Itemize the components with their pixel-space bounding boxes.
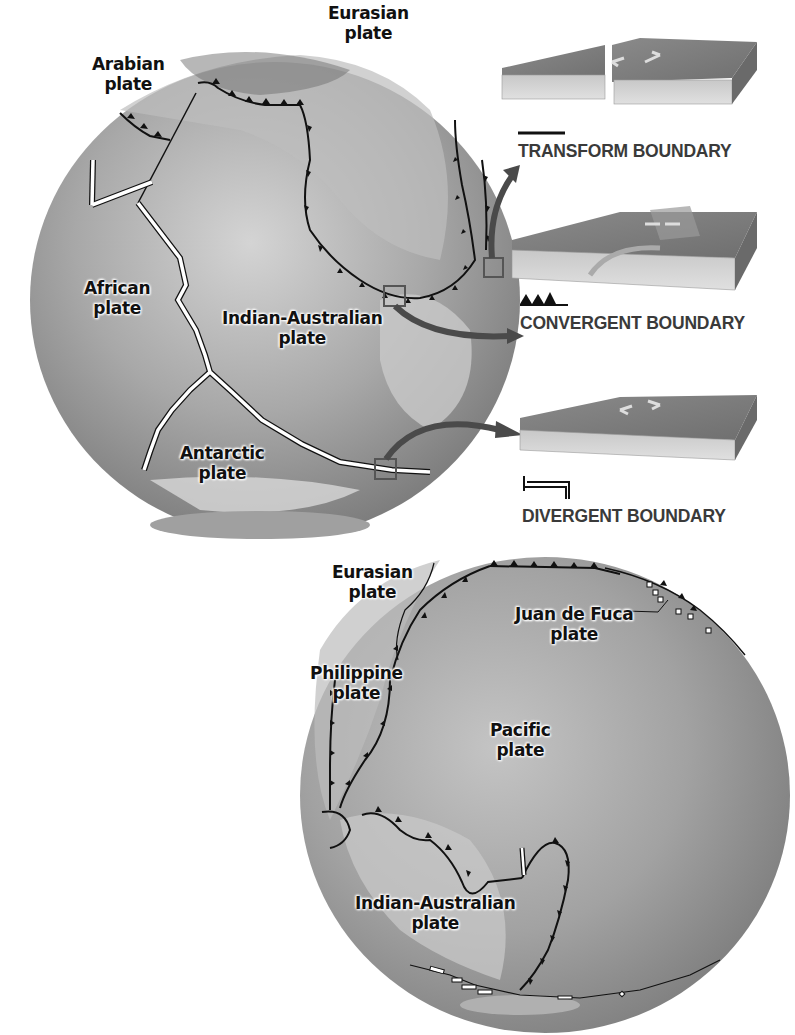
label-line: plate — [328, 23, 409, 43]
label-arabian-plate: Arabian plate — [92, 54, 164, 94]
label-eurasian-plate-top: Eurasian plate — [328, 3, 409, 43]
label-line: Eurasian — [328, 3, 409, 23]
label-line: Arabian — [92, 54, 164, 74]
label-line: Indian-Australian — [355, 893, 516, 913]
label-pacific-plate: Pacific plate — [490, 720, 551, 760]
label-line: Eurasian — [332, 562, 413, 582]
divergent-symbol — [524, 476, 569, 499]
label-indian-australian-plate-bottom: Indian-Australian plate — [355, 893, 516, 933]
label-eurasian-plate-bottom: Eurasian plate — [332, 562, 413, 602]
label-line: plate — [355, 913, 516, 933]
label-juan-de-fuca-plate: Juan de Fuca plate — [515, 604, 633, 644]
label-line: plate — [332, 582, 413, 602]
block-diagram-convergent — [512, 206, 757, 290]
label-line: plate — [222, 328, 383, 348]
legend-divergent-boundary: DIVERGENT BOUNDARY — [522, 506, 726, 527]
label-line: plate — [180, 463, 265, 483]
convergent-symbol — [520, 292, 568, 305]
label-african-plate: African plate — [84, 278, 150, 318]
label-line: plate — [84, 298, 150, 318]
label-indian-australian-plate-top: Indian-Australian plate — [222, 308, 383, 348]
label-line: Antarctic — [180, 443, 265, 463]
label-line: African — [84, 278, 150, 298]
label-line: plate — [490, 740, 551, 760]
block-diagram-transform — [502, 38, 757, 104]
label-line: Indian-Australian — [222, 308, 383, 328]
block-diagram-divergent — [520, 395, 757, 460]
label-line: Juan de Fuca — [515, 604, 633, 624]
label-line: Philippine — [310, 663, 403, 683]
label-line: plate — [515, 624, 633, 644]
label-antarctic-plate: Antarctic plate — [180, 443, 265, 483]
legend-convergent-boundary: CONVERGENT BOUNDARY — [520, 313, 745, 334]
label-line: Pacific — [490, 720, 551, 740]
label-line: plate — [310, 683, 403, 703]
legend-transform-boundary: TRANSFORM BOUNDARY — [518, 141, 732, 162]
label-line: plate — [92, 74, 164, 94]
label-philippine-plate: Philippine plate — [310, 663, 403, 703]
